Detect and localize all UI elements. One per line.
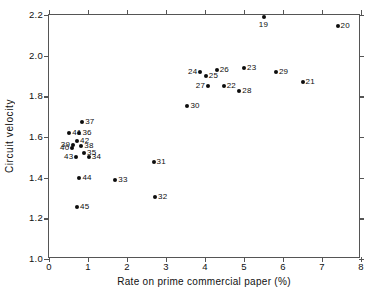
data-point-label: 42 (80, 137, 89, 145)
y-tick-label: 1.4 (29, 173, 43, 183)
data-point (152, 160, 156, 164)
y-tick-label: 2.2 (29, 10, 43, 20)
y-tick-mark-right (359, 137, 364, 138)
x-tick-mark-top (361, 10, 362, 15)
x-tick-mark-top (49, 10, 50, 15)
y-tick-label: 1.0 (29, 254, 43, 264)
data-point (67, 131, 71, 135)
data-point-label: 24 (188, 68, 197, 76)
data-point-label: 44 (82, 174, 91, 182)
data-point-label: 19 (259, 21, 268, 29)
x-axis-title-text: Rate on prime commercial paper (%) (117, 276, 291, 287)
y-tick-mark (44, 137, 49, 138)
y-tick-mark (44, 218, 49, 219)
data-point-label: 37 (85, 118, 94, 126)
y-axis-title: Circuit velocity (2, 14, 16, 258)
x-tick-mark-top (127, 10, 128, 15)
data-point (336, 24, 340, 28)
y-tick-mark (44, 56, 49, 57)
data-point (215, 68, 219, 72)
y-tick-label: 2.0 (29, 51, 43, 61)
data-point-label: 29 (279, 68, 288, 76)
data-point-label: 27 (196, 82, 205, 90)
data-point-label: 23 (247, 64, 256, 72)
data-point (185, 104, 189, 108)
data-point-label: 21 (306, 78, 315, 86)
data-point (75, 205, 79, 209)
data-point-label: 30 (190, 102, 199, 110)
x-tick-label: 4 (202, 262, 208, 272)
x-tick-mark-top (244, 10, 245, 15)
data-point-label: 33 (118, 176, 127, 184)
data-point (77, 176, 81, 180)
x-axis-title: Rate on prime commercial paper (%) (48, 276, 360, 287)
data-point (237, 89, 241, 93)
scatter-plot-figure: Circuit velocity 1.01.21.41.61.82.02.2 0… (0, 0, 385, 299)
x-tick-mark-top (205, 10, 206, 15)
data-point (153, 195, 157, 199)
y-tick-mark (44, 178, 49, 179)
data-point-label: 45 (80, 203, 89, 211)
data-point (198, 70, 202, 74)
data-point (274, 70, 278, 74)
x-tick-mark-top (88, 10, 89, 15)
data-point (262, 15, 266, 19)
data-point (74, 155, 78, 159)
y-tick-label: 1.8 (29, 92, 43, 102)
data-point-label: 31 (157, 158, 166, 166)
y-tick-label: 1.6 (29, 132, 43, 142)
plot-area: 1.01.21.41.61.82.02.2 012345678 19202122… (48, 14, 360, 258)
data-point-label: 26 (220, 66, 229, 74)
data-point (75, 139, 79, 143)
data-point-label: 40 (60, 144, 69, 152)
x-tick-mark-top (322, 10, 323, 15)
x-tick-label: 2 (124, 262, 130, 272)
data-point (301, 80, 305, 84)
data-point-label: 32 (158, 193, 167, 201)
data-point (204, 74, 208, 78)
data-point-label: 28 (242, 87, 251, 95)
x-tick-label: 7 (319, 262, 325, 272)
y-axis-title-text: Circuit velocity (4, 99, 15, 173)
x-tick-mark-top (166, 10, 167, 15)
data-point-label: 22 (227, 82, 236, 90)
y-tick-mark-right (359, 218, 364, 219)
y-tick-mark (44, 15, 49, 16)
y-tick-mark (44, 96, 49, 97)
y-tick-mark-right (359, 96, 364, 97)
data-point-label: 25 (209, 72, 218, 80)
data-point-label: 20 (341, 22, 350, 30)
data-point (242, 66, 246, 70)
data-point (70, 146, 74, 150)
x-tick-label: 5 (241, 262, 247, 272)
data-point-label: 43 (64, 153, 73, 161)
x-tick-label: 3 (163, 262, 169, 272)
y-tick-mark-right (359, 15, 364, 16)
data-point (82, 151, 86, 155)
data-point (206, 84, 210, 88)
x-tick-label: 0 (46, 262, 52, 272)
y-tick-mark-right (359, 178, 364, 179)
y-tick-mark-right (359, 56, 364, 57)
y-tick-label: 1.2 (29, 214, 43, 224)
data-point (80, 120, 84, 124)
x-tick-mark-top (283, 10, 284, 15)
data-point (222, 84, 226, 88)
x-tick-label: 6 (280, 262, 286, 272)
x-tick-label: 8 (358, 262, 364, 272)
x-tick-label: 1 (85, 262, 91, 272)
data-point (113, 178, 117, 182)
